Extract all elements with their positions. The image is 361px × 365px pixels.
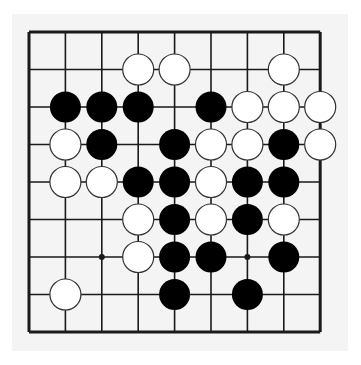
white-stone bbox=[50, 279, 81, 310]
black-stone bbox=[86, 92, 117, 123]
star-point bbox=[99, 254, 105, 260]
black-stone bbox=[232, 167, 263, 198]
white-stone bbox=[196, 129, 227, 160]
white-stone bbox=[50, 129, 81, 160]
white-stone bbox=[268, 92, 299, 123]
white-stone bbox=[50, 167, 81, 198]
white-stone bbox=[268, 54, 299, 85]
white-stone bbox=[196, 204, 227, 235]
black-stone bbox=[123, 167, 154, 198]
black-stone bbox=[268, 129, 299, 160]
black-stone bbox=[86, 129, 117, 160]
white-stone bbox=[86, 167, 117, 198]
white-stone bbox=[305, 129, 336, 160]
white-stone bbox=[123, 242, 154, 273]
black-stone bbox=[159, 204, 190, 235]
white-stone bbox=[196, 167, 227, 198]
black-stone bbox=[159, 167, 190, 198]
white-stone bbox=[123, 204, 154, 235]
white-stone bbox=[159, 54, 190, 85]
white-stone bbox=[305, 92, 336, 123]
go-board-canvas[interactable] bbox=[0, 0, 361, 365]
black-stone bbox=[196, 242, 227, 273]
black-stone bbox=[196, 92, 227, 123]
black-stone bbox=[232, 279, 263, 310]
black-stone bbox=[268, 242, 299, 273]
star-point bbox=[244, 254, 250, 260]
black-stone bbox=[159, 279, 190, 310]
white-stone bbox=[123, 54, 154, 85]
black-stone bbox=[268, 167, 299, 198]
black-stone bbox=[159, 129, 190, 160]
go-board[interactable] bbox=[0, 0, 361, 365]
black-stone bbox=[159, 242, 190, 273]
white-stone bbox=[232, 92, 263, 123]
black-stone bbox=[50, 92, 81, 123]
white-stone bbox=[268, 204, 299, 235]
black-stone bbox=[232, 204, 263, 235]
black-stone bbox=[123, 92, 154, 123]
white-stone bbox=[232, 129, 263, 160]
